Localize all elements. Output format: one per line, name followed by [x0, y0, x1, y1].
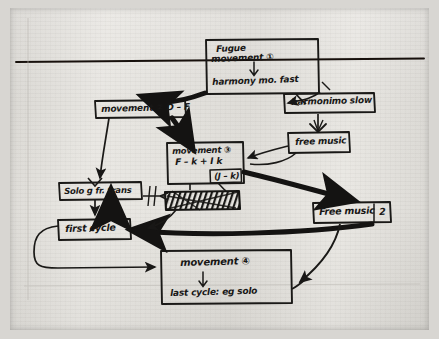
node-scribbled-out [143, 186, 240, 210]
node-fugue-movement-1 [206, 39, 319, 94]
edge-movement-3-to-free-music-2 [244, 172, 344, 198]
edge-movement-2-to-solo [100, 118, 109, 178]
node-movement-3 [167, 142, 244, 184]
edge-harmony-slow-to-free-music-1 [310, 114, 326, 132]
node-solo-fr-trans [59, 182, 142, 200]
edge-solo-to-first-cycle [88, 178, 102, 215]
edge-fugue-down-tail [322, 82, 330, 90]
node-free-music-2 [313, 202, 391, 223]
edge-first-cycle-to-movement-4 [34, 226, 155, 268]
edge-fugue-to-movement-2 [152, 93, 205, 102]
node-free-music-1 [288, 132, 350, 153]
node-first-cycle [58, 219, 131, 240]
scanned-page: Fugue movement ① harmony mo. fast moveme… [0, 0, 439, 339]
ink-drawing-layer [0, 0, 439, 339]
edge-movement-2-to-movement-3 [172, 118, 187, 140]
top-horizontal-rule [16, 59, 424, 63]
node-movement-4 [161, 250, 292, 304]
edge-free-music-2-to-movement-4 [292, 224, 340, 289]
